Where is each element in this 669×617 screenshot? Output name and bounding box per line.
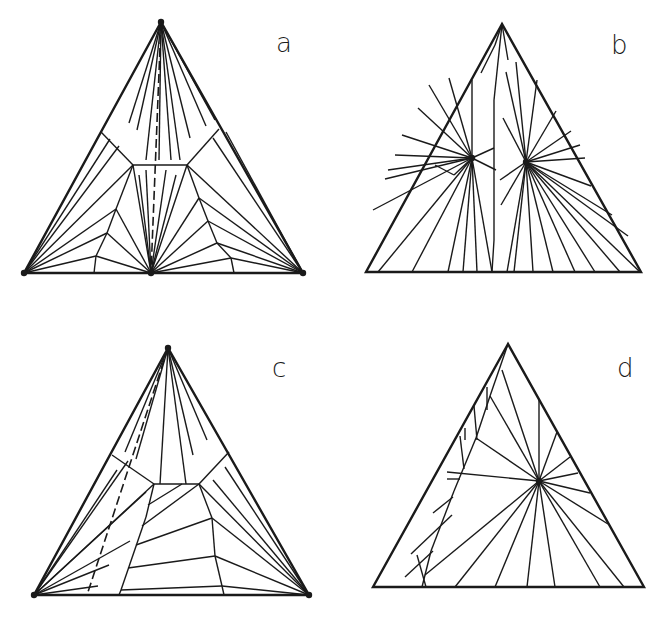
- fan-line: [208, 221, 217, 243]
- panel-a-segments: [24, 22, 303, 273]
- fan-line: [96, 233, 107, 256]
- fan-line: [225, 467, 309, 595]
- fan-line: [472, 148, 494, 158]
- fan-line: [199, 484, 212, 518]
- fan-line: [231, 258, 234, 273]
- fan-line: [500, 162, 526, 180]
- fan-line: [121, 517, 146, 590]
- fan-line: [34, 492, 146, 595]
- fan-line: [476, 396, 490, 438]
- fan-line: [474, 406, 477, 440]
- fan-hub-dot: [31, 592, 37, 598]
- panel-b: b: [366, 24, 641, 272]
- panel-c-fan-hubs: [31, 345, 312, 598]
- panel-a: a: [21, 19, 306, 276]
- fan-line: [526, 162, 595, 272]
- panel-a-label: a: [276, 28, 292, 58]
- panel-d: d: [373, 344, 644, 587]
- fan-line: [146, 484, 154, 517]
- panel-c: c: [31, 345, 312, 598]
- fan-hub-dot: [148, 270, 154, 276]
- panel-d-segments: [405, 344, 624, 587]
- fan-line: [212, 518, 309, 595]
- fan-hub-dot: [469, 155, 475, 161]
- fan-line: [187, 165, 303, 273]
- fan-line: [378, 158, 472, 272]
- fan-hub-dot: [306, 592, 312, 598]
- panel-b-fan-hubs: [469, 155, 529, 165]
- fan-line: [492, 240, 494, 272]
- fan-hub-dot: [300, 270, 306, 276]
- panel-b-label: b: [611, 30, 628, 60]
- fan-line: [425, 481, 539, 575]
- panel-b-triangle-outline: [366, 24, 641, 272]
- fan-line: [222, 586, 224, 595]
- fan-line: [455, 481, 539, 587]
- fan-line: [222, 586, 309, 595]
- fan-line: [215, 556, 309, 595]
- fan-line: [125, 348, 168, 452]
- fan-line: [373, 158, 472, 210]
- fan-line: [448, 158, 472, 272]
- fan-line: [107, 233, 151, 273]
- fan-line: [215, 556, 222, 586]
- fan-line: [526, 162, 612, 215]
- fan-line: [526, 162, 575, 272]
- fan-hub-dot: [523, 159, 529, 165]
- fan-line: [526, 80, 537, 162]
- fan-line: [24, 209, 116, 273]
- fan-line: [454, 438, 476, 491]
- fan-line: [433, 497, 453, 513]
- fan-line: [112, 455, 154, 484]
- panel-c-label: c: [272, 353, 286, 383]
- fan-line: [476, 438, 539, 481]
- fan-line: [395, 155, 472, 158]
- fan-line: [460, 436, 464, 469]
- figure-canvas: a b c d: [0, 0, 669, 617]
- fan-line: [199, 452, 229, 484]
- fan-line: [24, 165, 133, 273]
- fan-line: [539, 481, 600, 587]
- fan-line: [463, 158, 472, 272]
- fan-line: [417, 555, 426, 587]
- fan-line: [94, 256, 96, 273]
- fan-line: [472, 158, 496, 170]
- panel-b-segments: [373, 24, 640, 272]
- fan-line: [506, 72, 526, 162]
- fan-line: [431, 491, 454, 551]
- fan-line: [539, 481, 624, 587]
- panel-d-fan-hubs: [536, 478, 542, 484]
- fan-hub-dot: [536, 478, 542, 484]
- fan-line: [187, 129, 219, 165]
- fan-hub-dot: [165, 345, 171, 351]
- fan-hub-dot: [21, 270, 27, 276]
- fan-line: [34, 470, 117, 595]
- fan-hub-dot: [158, 19, 164, 25]
- fan-line: [24, 146, 119, 273]
- fan-line: [412, 158, 472, 272]
- fan-line: [418, 108, 472, 158]
- fan-line: [435, 165, 454, 175]
- fan-line: [116, 165, 133, 209]
- panel-c-segments: [34, 348, 309, 595]
- fan-line: [213, 480, 309, 595]
- fan-line: [526, 162, 640, 272]
- fan-line: [128, 556, 215, 568]
- panel-d-label: d: [617, 353, 634, 383]
- fan-line: [212, 518, 215, 556]
- fan-line: [402, 135, 472, 158]
- fan-line: [121, 586, 222, 590]
- fan-line: [449, 78, 472, 158]
- fan-line: [151, 258, 231, 273]
